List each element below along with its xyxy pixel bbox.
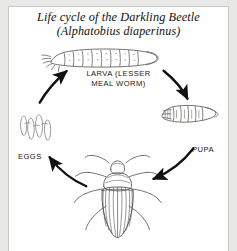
figure-frame: Life cycle of the Darkling Beetle (Alpha…	[0, 0, 237, 251]
eggs-illustration	[21, 115, 51, 140]
larva-illustration	[42, 49, 159, 72]
pupa-illustration	[162, 105, 218, 122]
arrow-beetle-to-eggs	[50, 157, 87, 186]
arrow-pupa-to-beetle	[154, 148, 194, 178]
figure-plate: Life cycle of the Darkling Beetle (Alpha…	[8, 6, 229, 251]
adult-beetle-illustration	[74, 155, 161, 237]
cycle-arrows	[40, 71, 194, 187]
life-cycle-diagram	[9, 7, 228, 251]
arrow-eggs-to-larva	[40, 71, 67, 102]
arrow-larva-to-pupa	[164, 71, 188, 99]
